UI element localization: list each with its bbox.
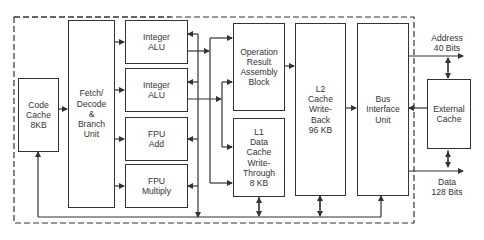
fpu-add-label: FPU Add [148, 129, 165, 149]
bus-interface-label: Bus Interface Unit [366, 94, 399, 125]
code-cache-label: Code Cache 8KB [26, 100, 51, 131]
external-cache-block: External Cache [427, 79, 471, 149]
l1-cache-block: L1 Data Cache Write- Through 8 KB [233, 118, 285, 197]
l2-cache-label: L2 Cache Write- Back 96 KB [308, 84, 333, 135]
integer-alu-2-block: Integer ALU [125, 68, 188, 112]
operation-result-block: Operation Result Assembly Block [233, 23, 285, 111]
integer-alu-1-label: Integer ALU [143, 32, 170, 52]
operation-result-label: Operation Result Assembly Block [240, 47, 278, 88]
address-label: Address 40 Bits [425, 33, 469, 53]
external-cache-label: External Cache [433, 104, 465, 124]
fpu-multiply-label: FPU Multiply [142, 176, 171, 196]
fetch-decode-label: Fetch/ Decode & Branch Unit [77, 88, 107, 139]
fetch-decode-block: Fetch/ Decode & Branch Unit [68, 20, 115, 208]
data-label: Data 128 Bits [425, 177, 469, 197]
l2-cache-block: L2 Cache Write- Back 96 KB [295, 23, 346, 196]
l1-cache-label: L1 Data Cache Write- Through 8 KB [243, 127, 275, 188]
integer-alu-1-block: Integer ALU [125, 20, 188, 64]
integer-alu-2-label: Integer ALU [143, 80, 170, 100]
code-cache-block: Code Cache 8KB [18, 78, 59, 152]
bus-interface-block: Bus Interface Unit [357, 23, 409, 196]
fpu-multiply-block: FPU Multiply [125, 164, 188, 208]
fpu-add-block: FPU Add [125, 117, 188, 161]
